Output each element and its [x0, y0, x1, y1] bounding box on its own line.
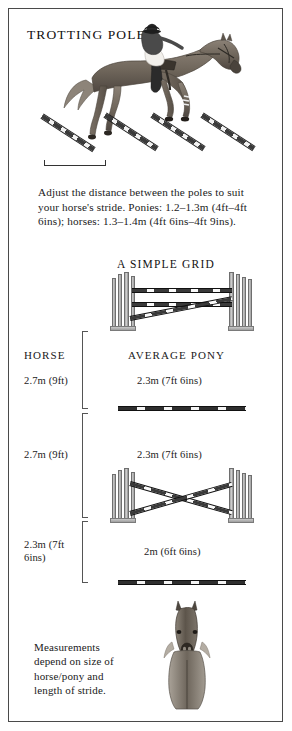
intro-paragraph: Adjust the distance between the poles to… — [38, 185, 263, 229]
pony-distance-3: 2m (6ft 6ins) — [144, 545, 201, 558]
pony-distance-1: 2.3m (7ft 6ins) — [137, 374, 202, 387]
jump-standard-right-cross — [228, 468, 254, 524]
column-header-pony: AVERAGE PONY — [128, 349, 225, 361]
ground-pole-2 — [118, 580, 246, 585]
grid-rail-top — [132, 288, 232, 293]
ground-pole-1 — [118, 406, 246, 411]
distance-bracket-1 — [82, 331, 88, 409]
pony-front-view-illustration — [158, 600, 216, 710]
horse-distance-2: 2.7m (9ft) — [24, 448, 68, 461]
pole-distance-bracket — [44, 160, 106, 166]
pony-distance-2: 2.3m (7ft 6ins) — [137, 448, 202, 461]
column-header-horse: HORSE — [24, 349, 66, 361]
grid-title: A SIMPLE GRID — [0, 258, 292, 270]
figure-page: TROTTING POLES — [0, 0, 292, 731]
horse-distance-3: 2.3m (7ft 6ins) — [24, 538, 86, 564]
jump-standard-left-cross — [110, 468, 136, 524]
distance-bracket-2 — [82, 413, 88, 518]
horse-distance-1: 2.7m (9ft) — [24, 374, 68, 387]
pony-front-svg — [158, 600, 216, 710]
footnote-caption: Measurements depend on size of horse/pon… — [34, 640, 134, 698]
